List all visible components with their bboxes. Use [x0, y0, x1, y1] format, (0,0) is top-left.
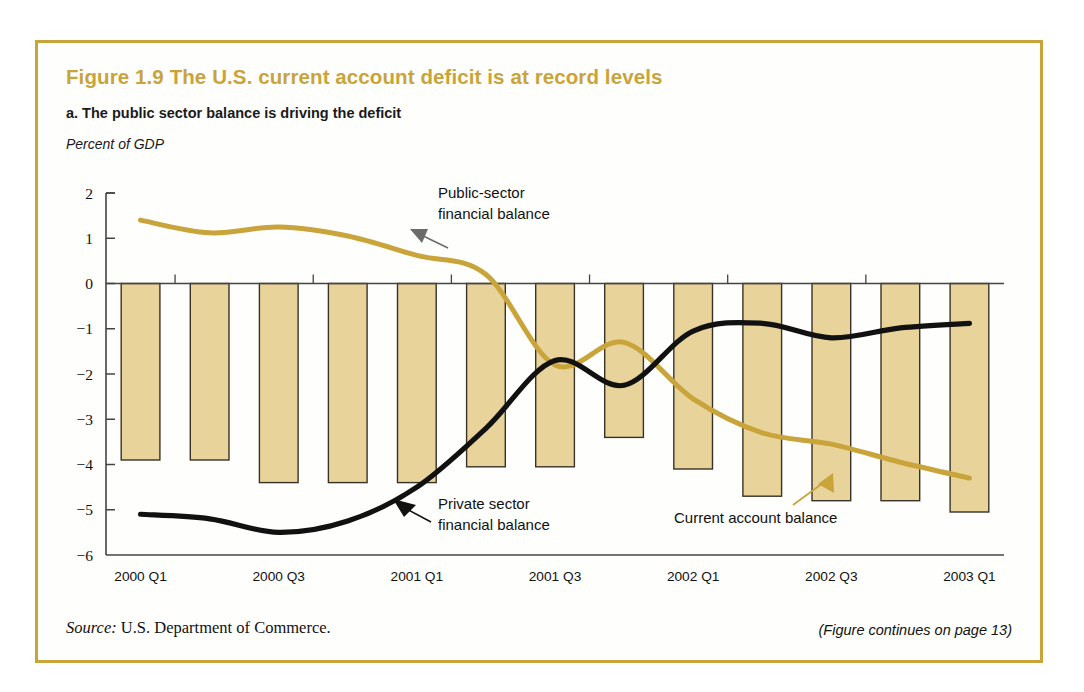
- annotation-private-sector-line1: Private sector: [438, 495, 530, 512]
- bar-2002-q1: [674, 284, 713, 470]
- x-tick-label: 2002 Q3: [805, 569, 858, 584]
- bar-2001-q4: [605, 284, 644, 438]
- x-tick-label: 2000 Q3: [252, 569, 305, 584]
- bar-2002-q4: [881, 284, 920, 501]
- figure-frame: Figure 1.9 The U.S. current account defi…: [35, 40, 1043, 663]
- x-axis-tick-labels: 2000 Q12000 Q32001 Q12001 Q32002 Q12002 …: [114, 569, 995, 584]
- source-note: Source: U.S. Department of Commerce.: [66, 618, 331, 638]
- annotation-private-sector-line2: financial balance: [438, 516, 550, 533]
- y-axis-tick-labels: 210−1−2−3−4−5−6: [77, 185, 94, 564]
- x-tick-label: 2000 Q1: [114, 569, 167, 584]
- bar-2001-q3: [536, 284, 575, 467]
- source-value: U.S. Department of Commerce.: [117, 618, 331, 637]
- annotation-public-sector-line2: financial balance: [438, 205, 550, 222]
- x-tick-label: 2003 Q1: [943, 569, 996, 584]
- bar-2000-q1: [121, 284, 160, 461]
- bar-2000-q2: [190, 284, 229, 461]
- y-tick-label: −2: [77, 366, 94, 383]
- y-tick-label: −5: [77, 501, 94, 518]
- annotation-public-sector-line1: Public-sector: [438, 184, 525, 201]
- source-label: Source:: [66, 618, 117, 637]
- bar-2000-q3: [259, 284, 298, 483]
- y-tick-label: −1: [77, 320, 94, 337]
- bar-2000-q4: [328, 284, 367, 483]
- x-tick-label: 2001 Q3: [529, 569, 582, 584]
- annotation-public-sector: Public-sector financial balance: [410, 184, 550, 248]
- y-tick-label: −6: [77, 547, 94, 564]
- y-tick-label: −3: [77, 411, 94, 428]
- bar-2001-q1: [398, 284, 437, 483]
- bar-2002-q3: [812, 284, 851, 501]
- chart-plot-area: 2000 Q12000 Q32001 Q12001 Q32002 Q12002 …: [38, 43, 1046, 666]
- y-tick-label: −4: [77, 456, 94, 473]
- bar-series-current-account: [121, 284, 989, 513]
- annotation-private-sector: Private sector financial balance: [393, 495, 550, 533]
- figure-continues-note: (Figure continues on page 13): [819, 622, 1012, 638]
- x-tick-label: 2002 Q1: [667, 569, 720, 584]
- x-tick-label: 2001 Q1: [391, 569, 444, 584]
- y-tick-label: 0: [85, 275, 93, 292]
- annotation-current-account-line1: Current account balance: [674, 509, 837, 526]
- y-tick-label: 1: [85, 230, 93, 247]
- bar-2002-q2: [743, 284, 782, 497]
- y-tick-label: 2: [85, 185, 93, 202]
